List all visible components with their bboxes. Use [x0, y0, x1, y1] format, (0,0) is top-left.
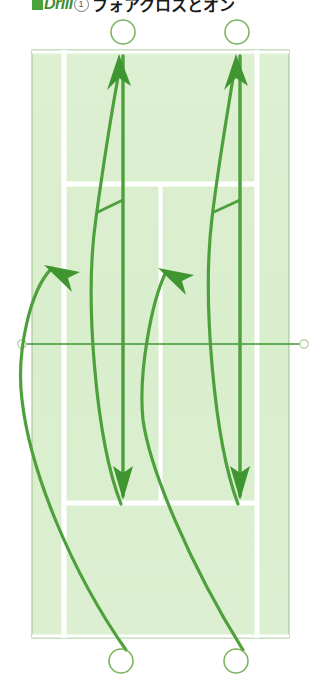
player-top-left	[111, 20, 135, 44]
player-top-right	[225, 20, 249, 44]
tennis-court-drill-diagram	[0, 0, 320, 685]
player-bottom-left	[109, 649, 133, 673]
player-bottom-right	[224, 649, 248, 673]
net-post-right	[300, 340, 308, 348]
